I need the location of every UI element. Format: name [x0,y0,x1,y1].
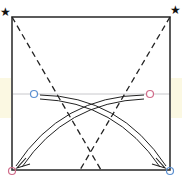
blue-point-left [31,91,38,98]
pink-point-right [147,91,154,98]
diagram-canvas [0,0,182,180]
star-top-right-icon: ★ [170,4,181,16]
origami-diagram: ★ ★ [0,0,182,180]
star-top-left-icon: ★ [0,6,11,18]
